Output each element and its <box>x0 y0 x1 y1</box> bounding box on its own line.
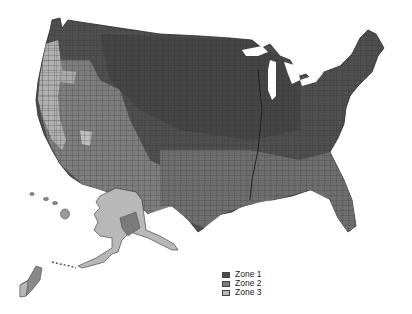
contiguous-us <box>36 18 384 232</box>
hawaii-island-1 <box>30 193 34 196</box>
hawaii-inset <box>30 193 70 220</box>
map-legend: Zone 1 Zone 2 Zone 3 <box>222 270 261 297</box>
legend-label: Zone 3 <box>235 288 261 297</box>
guam-inset <box>20 266 42 297</box>
legend-swatch-zone-2 <box>222 281 230 287</box>
hawaii-island-2 <box>44 198 49 201</box>
legend-swatch-zone-1 <box>222 272 230 278</box>
us-county-map <box>0 0 412 314</box>
alaska-aleutians <box>52 262 76 268</box>
hawaii-island-4 <box>61 209 70 219</box>
legend-item-zone-3: Zone 3 <box>222 288 261 297</box>
legend-swatch-zone-3 <box>222 290 230 296</box>
hawaii-island-3 <box>53 202 58 205</box>
